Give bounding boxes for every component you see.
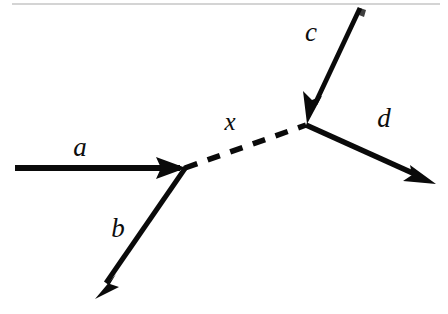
particle-arrowhead-d [403, 165, 436, 184]
propagator-line-x [185, 125, 306, 168]
particle-line-b [95, 167, 186, 299]
label-propagator-x: x [223, 108, 235, 135]
particle-line-c-stroke [315, 8, 360, 104]
propagator-line-x-stroke [185, 125, 306, 168]
particle-line-d [306, 125, 436, 184]
feynman-diagram-figure: a b x c d [0, 0, 448, 314]
feynman-diagram-canvas: a b x c d [0, 0, 448, 314]
label-particle-a: a [73, 132, 87, 162]
particle-line-d-stroke [306, 125, 417, 175]
label-particle-c: c [305, 17, 317, 47]
label-particle-b: b [111, 213, 125, 243]
particle-line-a [15, 157, 186, 179]
label-particle-d: d [377, 103, 391, 133]
